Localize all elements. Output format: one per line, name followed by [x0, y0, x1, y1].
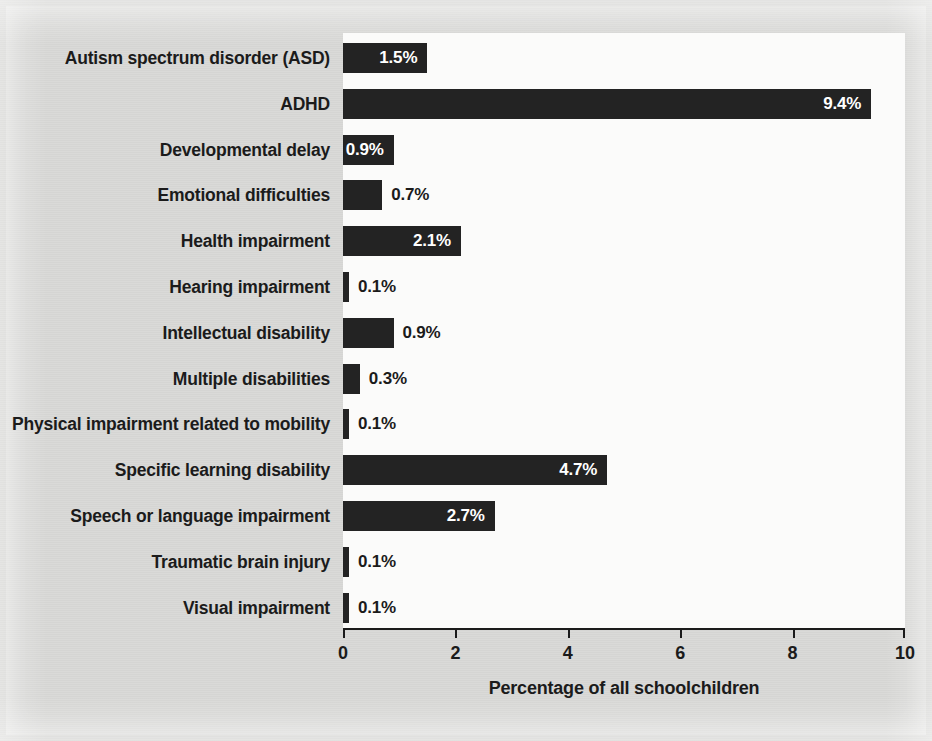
bar-row: Visual impairment0.1% [0, 593, 932, 623]
bar-row: Specific learning disability4.7% [0, 455, 932, 485]
bar-value-label-outside: 0.3% [369, 369, 407, 389]
bar-value-label-outside: 0.1% [358, 598, 396, 618]
bar-chart: Autism spectrum disorder (ASD)1.5%ADHD9.… [0, 0, 932, 741]
bar-row: ADHD9.4% [0, 89, 932, 119]
bar [343, 89, 871, 119]
category-label: Intellectual disability [0, 322, 330, 343]
bar-row: Traumatic brain injury0.1% [0, 547, 932, 577]
category-label: ADHD [0, 93, 330, 114]
bar-value-label-inside: 2.7% [447, 506, 485, 526]
x-axis-line [343, 628, 905, 630]
category-label: Multiple disabilities [0, 368, 330, 389]
category-label: Traumatic brain injury [0, 551, 330, 572]
bar-value-label-outside: 0.1% [358, 277, 396, 297]
x-axis-tick-label: 2 [450, 643, 460, 664]
bar [343, 409, 349, 439]
bar-row: Intellectual disability0.9% [0, 318, 932, 348]
bar [343, 547, 349, 577]
bar-value-label-inside: 4.7% [559, 460, 597, 480]
category-label: Hearing impairment [0, 277, 330, 298]
category-label: Physical impairment related to mobility [0, 414, 330, 435]
bar-row: Autism spectrum disorder (ASD)1.5% [0, 43, 932, 73]
bar-value-label-outside: 0.1% [358, 414, 396, 434]
bar-value-label-outside: 0.7% [391, 185, 429, 205]
bar [343, 593, 349, 623]
x-axis-tick-label: 10 [895, 643, 915, 664]
x-axis-tick [903, 628, 905, 638]
category-label: Emotional difficulties [0, 185, 330, 206]
x-axis-tick [680, 628, 682, 638]
bar-value-label-inside: 1.5% [379, 48, 417, 68]
x-axis-tick [793, 628, 795, 638]
bar [343, 272, 349, 302]
category-label: Developmental delay [0, 139, 330, 160]
bar-row: Multiple disabilities0.3% [0, 364, 932, 394]
bar-value-label-outside: 0.9% [403, 323, 441, 343]
bar [343, 180, 382, 210]
category-label: Health impairment [0, 231, 330, 252]
x-axis-tick-label: 8 [788, 643, 798, 664]
x-axis-title: Percentage of all schoolchildren [343, 678, 905, 699]
x-axis-tick-label: 4 [563, 643, 573, 664]
bar-row: Hearing impairment0.1% [0, 272, 932, 302]
category-label: Specific learning disability [0, 460, 330, 481]
x-axis-tick-label: 0 [338, 643, 348, 664]
category-label: Autism spectrum disorder (ASD) [0, 48, 330, 69]
bar-row: Developmental delay0.9% [0, 135, 932, 165]
x-axis [343, 628, 905, 640]
bar-value-label-inside: 2.1% [413, 231, 451, 251]
bar-rows: Autism spectrum disorder (ASD)1.5%ADHD9.… [0, 33, 932, 628]
bar [343, 318, 394, 348]
x-axis-tick-label: 6 [675, 643, 685, 664]
bar-row: Physical impairment related to mobility0… [0, 409, 932, 439]
x-axis-tick [568, 628, 570, 638]
bar-value-label-outside: 0.1% [358, 552, 396, 572]
category-label: Speech or language impairment [0, 506, 330, 527]
bar [343, 364, 360, 394]
bar-row: Emotional difficulties0.7% [0, 180, 932, 210]
category-label: Visual impairment [0, 597, 330, 618]
bar-value-label-inside: 9.4% [823, 94, 861, 114]
bar-row: Speech or language impairment2.7% [0, 501, 932, 531]
bar-value-label-inside: 0.9% [346, 140, 384, 160]
x-axis-tick [455, 628, 457, 638]
bar-row: Health impairment2.1% [0, 226, 932, 256]
x-axis-tick [343, 628, 345, 638]
